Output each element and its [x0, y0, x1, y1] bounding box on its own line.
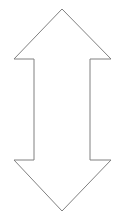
image-canvas — [0, 0, 126, 219]
double-headed-arrow-graphic — [0, 0, 126, 219]
double-headed-vertical-arrow-icon — [14, 9, 111, 211]
